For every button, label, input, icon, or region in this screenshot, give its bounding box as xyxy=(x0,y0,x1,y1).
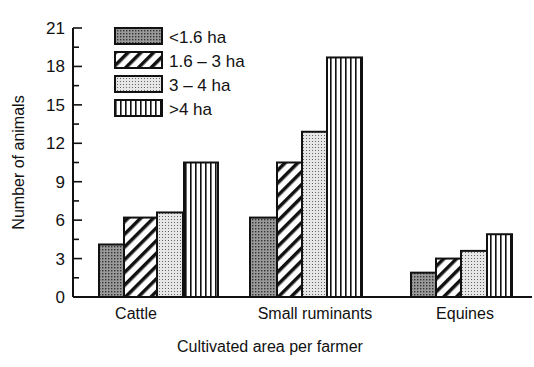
legend-label: 3 – 4 ha xyxy=(169,76,231,95)
legend-label: >4 ha xyxy=(169,100,213,119)
bar xyxy=(184,163,218,298)
bar xyxy=(327,57,362,297)
labels: 036912151821Number of animalsCattleSmall… xyxy=(10,19,494,355)
y-tick-label: 18 xyxy=(46,57,65,76)
bar-chart: <1.6 ha1.6 – 3 ha3 – 4 ha>4 ha 036912151… xyxy=(0,0,534,367)
bar xyxy=(487,234,512,297)
legend-swatch xyxy=(115,76,162,92)
y-tick-label: 15 xyxy=(46,96,65,115)
legend: <1.6 ha1.6 – 3 ha3 – 4 ha>4 ha xyxy=(115,28,245,119)
y-tick-label: 0 xyxy=(56,288,65,307)
x-category-label: Small ruminants xyxy=(258,305,373,322)
bar xyxy=(157,212,183,297)
legend-label: 1.6 – 3 ha xyxy=(169,52,245,71)
y-tick-label: 21 xyxy=(46,19,65,38)
x-category-label: Cattle xyxy=(115,305,157,322)
y-tick-label: 3 xyxy=(56,250,65,269)
y-axis-label: Number of animals xyxy=(10,95,27,229)
x-category-label: Equines xyxy=(436,305,494,322)
bars xyxy=(99,57,512,297)
legend-swatch xyxy=(115,28,162,44)
y-tick-label: 9 xyxy=(56,173,65,192)
legend-swatch xyxy=(115,100,162,116)
y-tick-label: 6 xyxy=(56,211,65,230)
legend-swatch xyxy=(115,52,162,68)
x-axis-label: Cultivated area per farmer xyxy=(177,338,364,355)
y-tick-label: 12 xyxy=(46,134,65,153)
legend-label: <1.6 ha xyxy=(169,28,227,47)
